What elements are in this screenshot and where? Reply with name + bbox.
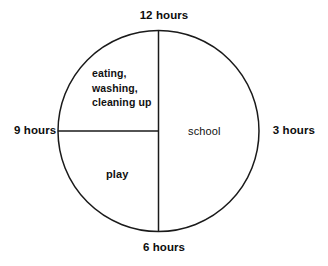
sector-label-school: school bbox=[188, 126, 221, 137]
hour-label-6: 6 hours bbox=[0, 242, 328, 254]
sector-label-chores-line-3: cleaning up bbox=[92, 95, 151, 110]
hour-label-12: 12 hours bbox=[0, 10, 328, 22]
clock-pie-diagram: 12 hours 3 hours 6 hours 9 hours eating,… bbox=[0, 0, 328, 266]
sector-label-chores: eating, washing, cleaning up bbox=[92, 66, 151, 110]
hour-label-9: 9 hours bbox=[14, 125, 56, 137]
hour-label-3: 3 hours bbox=[273, 125, 315, 137]
sector-label-play: play bbox=[106, 169, 128, 180]
sector-label-chores-line-1: eating, bbox=[92, 66, 151, 81]
sector-label-chores-line-2: washing, bbox=[92, 81, 151, 96]
